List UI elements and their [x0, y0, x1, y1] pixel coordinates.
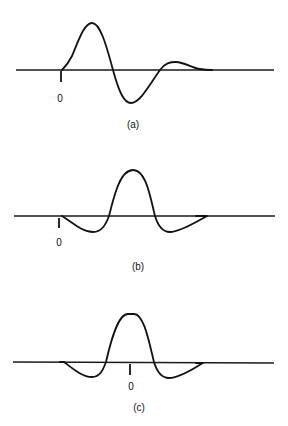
panel-caption: (c) — [133, 402, 145, 413]
time-axis — [13, 362, 274, 363]
waveform-curve — [62, 170, 207, 232]
waveform-curve — [62, 23, 212, 103]
origin-label: 0 — [57, 93, 63, 104]
panel-c: 0 (c) — [13, 314, 274, 413]
panel-caption: (a) — [127, 119, 139, 130]
waveform-figure: 0 (a) 0 (b) 0 (c) — [0, 0, 288, 426]
origin-label: 0 — [56, 237, 62, 248]
waveform-curve — [60, 314, 203, 378]
panel-caption: (b) — [132, 261, 144, 272]
origin-label: 0 — [128, 381, 134, 392]
panel-a: 0 (a) — [16, 23, 274, 130]
panel-b: 0 (b) — [14, 170, 275, 272]
